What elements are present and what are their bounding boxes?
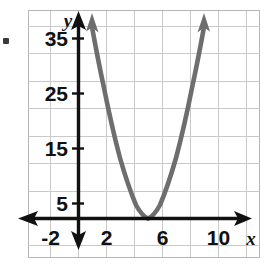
y-tick-label-5: 5 [56,192,68,215]
bullet-marker [3,38,9,44]
x-tick-label-10: 10 [207,226,230,249]
x-tick-label-6: 6 [157,226,169,249]
x-tick-label-2: 2 [101,226,113,249]
chart-figure: 35 25 15 5 -2 2 6 10 y x [0,0,268,264]
x-axis-label: x [245,228,256,249]
quadratic-graph-svg: 35 25 15 5 -2 2 6 10 y x [0,0,268,264]
y-tick-label-25: 25 [45,82,69,105]
y-tick-label-15: 15 [45,137,69,160]
x-tick-label-neg2: -2 [41,226,60,249]
y-axis-label: y [62,10,73,31]
